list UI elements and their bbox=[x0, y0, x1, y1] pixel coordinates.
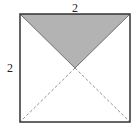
shaded-triangle bbox=[20, 14, 130, 68]
square-diagram: 2 2 bbox=[0, 0, 137, 132]
diagonal-lower-left-dashed bbox=[20, 68, 75, 122]
left-side-label: 2 bbox=[7, 62, 13, 74]
diagram-canvas bbox=[0, 0, 137, 132]
top-side-label: 2 bbox=[72, 2, 78, 14]
diagonal-lower-right-dashed bbox=[75, 68, 130, 122]
